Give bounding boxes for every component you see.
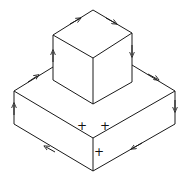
direction-arrows (14, 18, 175, 152)
plus-sign-left: + (77, 120, 87, 132)
isometric-blocks-drawing (0, 0, 186, 178)
top-cube (53, 10, 132, 104)
plus-sign-right: + (100, 120, 110, 132)
plus-sign-front: + (94, 146, 104, 158)
diagram-canvas: + + + (0, 0, 186, 178)
